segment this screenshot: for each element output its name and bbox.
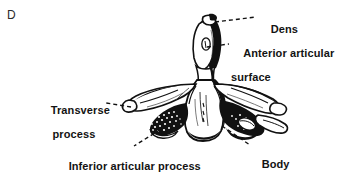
label-iap-text: Inferior articular process <box>69 160 201 172</box>
label-body: Body <box>249 146 290 179</box>
label-aas-line1: Anterior articular <box>243 47 334 59</box>
label-tp-line2: process <box>38 128 110 140</box>
label-anterior-articular-surface: Anterior articular surface <box>231 35 334 107</box>
label-body-text: Body <box>262 158 290 170</box>
label-aas-line2: surface <box>231 71 334 83</box>
label-inferior-articular-process: Inferior articular process <box>56 148 201 179</box>
label-dens-text: Dens <box>271 23 298 35</box>
label-tp-line1: Transverse <box>51 104 110 116</box>
anatomical-figure-panel: D <box>0 0 351 179</box>
